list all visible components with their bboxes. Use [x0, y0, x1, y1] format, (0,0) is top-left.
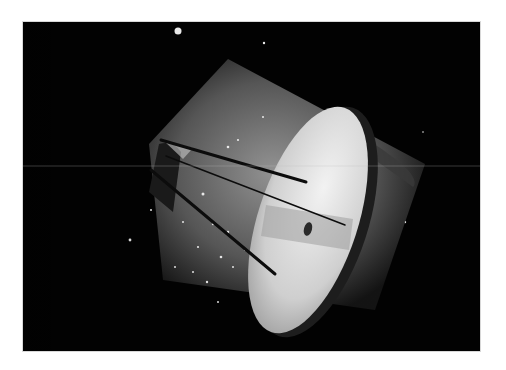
capsule-illustration: [23, 22, 480, 351]
photograph: [23, 22, 480, 351]
